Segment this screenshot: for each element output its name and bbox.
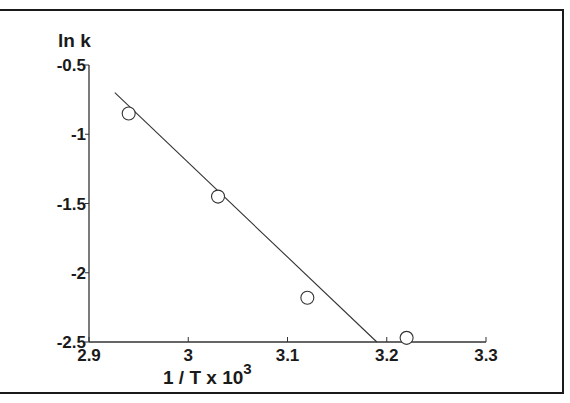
data-points [122, 107, 413, 344]
x-axis-title-superscript: 3 [243, 360, 251, 377]
axes: 2.933.13.23.3-0.5-1-1.5-2-2.5 [57, 56, 498, 365]
fit-line [115, 93, 377, 342]
x-tick-label: 3.2 [375, 346, 399, 365]
data-point-marker [301, 291, 314, 304]
x-axis-title: 1 / T x 103 [163, 360, 252, 388]
y-axis-title: ln k [58, 30, 91, 51]
data-point-marker [400, 331, 413, 344]
y-tick-label: -1.5 [57, 195, 86, 214]
y-tick-label: -2.5 [57, 333, 86, 352]
x-tick-label: 3.1 [276, 346, 300, 365]
y-tick-label: -1 [71, 125, 86, 144]
data-point-marker [122, 107, 135, 120]
y-tick-label: -0.5 [57, 56, 86, 75]
x-tick-label: 3 [184, 346, 193, 365]
arrhenius-plot: 2.933.13.23.3-0.5-1-1.5-2-2.5 ln k1 / T … [0, 0, 570, 403]
data-point-marker [212, 190, 225, 203]
x-tick-label: 3.3 [474, 346, 498, 365]
axis-labels: ln k1 / T x 103 [58, 30, 252, 388]
y-tick-label: -2 [71, 264, 86, 283]
regression-line [115, 93, 377, 342]
